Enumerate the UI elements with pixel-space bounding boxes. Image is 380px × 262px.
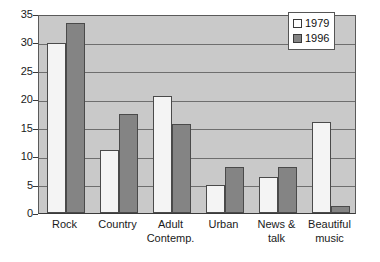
bar-1996-adult-contemp	[172, 124, 191, 213]
x-tick-label: News &talk	[250, 217, 303, 245]
bar-1979-beautiful-music	[312, 122, 331, 213]
y-tick-label: 35	[3, 9, 33, 20]
light-square-swatch-icon	[293, 19, 302, 28]
x-tick-label: Beautifulmusic	[303, 217, 356, 245]
legend-label: 1996	[305, 33, 329, 44]
bar-1996-country	[119, 114, 138, 214]
bar-chart: 05101520253035 RockCountryAdultContemp.U…	[0, 0, 380, 262]
y-tick-label: 20	[3, 94, 33, 105]
y-tick-label: 25	[3, 66, 33, 77]
bar-1996-beautiful-music	[331, 206, 350, 213]
y-tick-mark	[33, 43, 38, 44]
chart-legend: 1979 1996	[288, 12, 335, 50]
y-tick-label: 0	[3, 208, 33, 219]
legend-item-1996[interactable]: 1996	[293, 31, 329, 46]
bar-1979-urban	[206, 185, 225, 213]
bar-1996-urban	[225, 167, 244, 213]
bar-1979-country	[100, 150, 119, 213]
bar-1979-rock	[47, 43, 66, 213]
bar-1979-news-talk	[259, 177, 278, 213]
y-tick-mark	[33, 15, 38, 16]
y-tick-label: 10	[3, 151, 33, 162]
bar-1996-rock	[66, 23, 85, 213]
bar-1979-adult-contemp	[153, 96, 172, 213]
x-tick-label: AdultContemp.	[144, 217, 197, 245]
y-tick-label: 5	[3, 180, 33, 191]
y-tick-label: 30	[3, 37, 33, 48]
y-tick-mark	[33, 129, 38, 130]
y-tick-label: 15	[3, 123, 33, 134]
y-tick-mark	[33, 157, 38, 158]
x-tick-label: Rock	[38, 217, 91, 231]
dark-square-swatch-icon	[293, 34, 302, 43]
bar-1996-news-talk	[278, 167, 297, 213]
y-tick-mark	[33, 214, 38, 215]
y-axis: 05101520253035	[0, 0, 33, 262]
y-tick-mark	[33, 100, 38, 101]
x-tick-label: Urban	[197, 217, 250, 231]
x-tick-label: Country	[91, 217, 144, 231]
legend-item-1979[interactable]: 1979	[293, 16, 329, 31]
legend-label: 1979	[305, 18, 329, 29]
x-axis: RockCountryAdultContemp.UrbanNews &talkB…	[38, 217, 356, 262]
y-tick-mark	[33, 72, 38, 73]
y-tick-mark	[33, 186, 38, 187]
